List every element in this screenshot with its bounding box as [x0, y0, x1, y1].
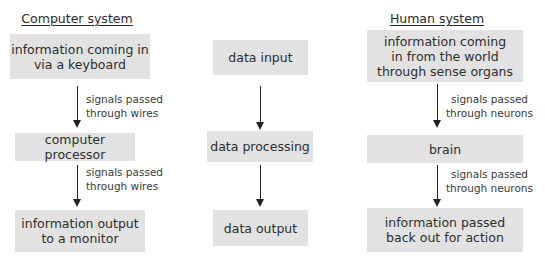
data-input-box: data input	[213, 40, 308, 75]
box-text-line: information coming in	[11, 42, 149, 57]
human-arrow-label-2: signals passed through neurons	[446, 167, 533, 195]
computer-output-box: information output to a monitor	[15, 210, 145, 252]
human-input-box: information coming in from the world thr…	[367, 30, 523, 82]
computer-arrow-label-2: signals passed through wires	[86, 165, 163, 193]
box-text-line: data output	[224, 221, 297, 236]
human-arrow-label-1: signals passed through neurons	[446, 92, 533, 120]
box-text-line: to a monitor	[21, 231, 138, 246]
box-text-line: data processing	[210, 139, 310, 154]
computer-system-heading: Computer system	[21, 11, 132, 26]
down-arrow-icon	[432, 165, 443, 207]
down-arrow-icon	[255, 86, 266, 130]
down-arrow-icon	[432, 84, 443, 128]
computer-processor-box: computer processor	[15, 133, 135, 161]
brain-box: brain	[367, 135, 523, 163]
down-arrow-icon	[72, 86, 83, 128]
box-text-line: information output	[21, 216, 138, 231]
box-text-line: data input	[228, 50, 292, 65]
down-arrow-icon	[255, 165, 266, 207]
human-system-heading: Human system	[390, 11, 484, 26]
data-processing-box: data processing	[207, 131, 313, 162]
box-text-line: back out for action	[385, 230, 505, 245]
box-text-line: via a keyboard	[11, 57, 149, 72]
box-text-line: computer processor	[15, 132, 135, 162]
box-text-line: information passed	[385, 215, 505, 230]
computer-input-box: information coming in via a keyboard	[10, 34, 150, 79]
box-text-line: brain	[429, 142, 461, 157]
computer-arrow-label-1: signals passed through wires	[86, 92, 163, 120]
human-output-box: information passed back out for action	[367, 208, 523, 252]
data-output-box: data output	[213, 210, 308, 246]
box-text-line: through sense organs	[377, 64, 513, 79]
box-text-line: information coming	[377, 34, 513, 49]
box-text-line: in from the world	[377, 49, 513, 64]
down-arrow-icon	[72, 165, 83, 207]
